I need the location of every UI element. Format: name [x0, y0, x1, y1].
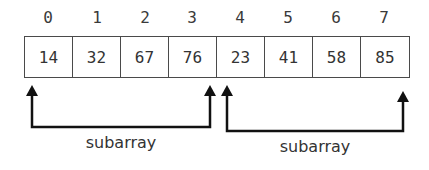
- subarray-label: subarray: [61, 133, 181, 152]
- subarray-bracket-left: [32, 93, 210, 127]
- subarray-bracket-right: [227, 93, 403, 131]
- arrowhead-icon: [397, 91, 409, 102]
- subarray-label: subarray: [255, 137, 375, 156]
- arrowhead-icon: [204, 85, 216, 96]
- array-subarray-diagram: 0 1 2 3 4 5 6 7 14 32 67 76 23 41 58 85 …: [0, 0, 429, 170]
- arrowhead-icon: [221, 85, 233, 96]
- arrowhead-icon: [26, 85, 38, 96]
